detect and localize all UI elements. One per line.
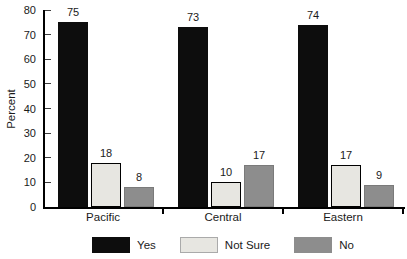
y-tick-mark: [45, 83, 51, 84]
y-tick-mark: [45, 10, 51, 11]
legend: YesNot SureNo: [43, 235, 403, 255]
bar-yes-central: [178, 27, 208, 207]
y-tick-mark: [45, 157, 51, 158]
category-label-eastern: Eastern: [283, 211, 403, 223]
legend-label: Yes: [137, 239, 156, 251]
bar-yes-eastern: [298, 25, 328, 207]
bar-not-sure-eastern: [331, 165, 361, 207]
legend-item-not-sure: Not Sure: [180, 237, 270, 253]
bar-value-label: 75: [53, 6, 93, 19]
bar-no-pacific: [124, 187, 154, 207]
bar-value-label: 8: [119, 171, 159, 184]
legend-label: No: [339, 239, 354, 251]
bar-no-eastern: [364, 185, 394, 207]
legend-swatch: [294, 237, 332, 253]
y-tick-mark: [45, 108, 51, 109]
y-tick-mark: [45, 34, 51, 35]
bar-value-label: 18: [86, 147, 126, 160]
y-tick-label: 60: [0, 52, 36, 66]
category-label-pacific: Pacific: [43, 211, 163, 223]
bar-not-sure-central: [211, 182, 241, 207]
bar-value-label: 74: [293, 9, 333, 22]
y-tick-mark: [45, 59, 51, 60]
y-tick-label: 50: [0, 77, 36, 91]
y-tick-label: 0: [0, 200, 36, 214]
y-tick-label: 40: [0, 102, 36, 116]
bar-value-label: 9: [359, 169, 399, 182]
y-tick-mark: [45, 133, 51, 134]
bar-yes-pacific: [58, 22, 88, 207]
y-tick-label: 20: [0, 151, 36, 165]
category-label-central: Central: [163, 211, 283, 223]
legend-item-yes: Yes: [92, 237, 156, 253]
bar-chart: Percent 7518873101774179 YesNot SureNo 0…: [0, 0, 407, 259]
legend-item-no: No: [294, 237, 354, 253]
bar-no-central: [244, 165, 274, 207]
legend-swatch: [92, 237, 130, 253]
plot-area: 7518873101774179: [43, 10, 405, 209]
bar-not-sure-pacific: [91, 163, 121, 207]
y-tick-label: 70: [0, 28, 36, 42]
y-tick-label: 30: [0, 126, 36, 140]
bar-value-label: 10: [206, 166, 246, 179]
bar-value-label: 73: [173, 11, 213, 24]
y-tick-mark: [45, 182, 51, 183]
bar-value-label: 17: [239, 149, 279, 162]
legend-swatch: [180, 237, 218, 253]
legend-label: Not Sure: [225, 239, 270, 251]
y-tick-label: 80: [0, 3, 36, 17]
y-tick-label: 10: [0, 175, 36, 189]
x-boundary-tick: [402, 209, 404, 214]
bar-value-label: 17: [326, 149, 366, 162]
